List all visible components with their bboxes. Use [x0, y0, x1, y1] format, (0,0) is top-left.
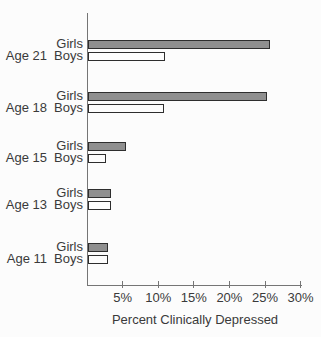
x-tick-label-15: 15% — [176, 290, 212, 305]
group-label-age-21: Age 21 — [6, 50, 47, 62]
bar-girls-age-13 — [88, 189, 111, 198]
group-label-age-18: Age 18 — [6, 102, 47, 114]
group-label-age-13: Age 13 — [6, 199, 47, 211]
x-tick-label-5: 5% — [105, 290, 141, 305]
bar-boys-age-21 — [88, 52, 165, 61]
x-axis-line — [87, 285, 302, 286]
bar-boys-age-18 — [88, 104, 164, 113]
group-label-age-15: Age 15 — [6, 152, 47, 164]
series-label-boys-age-21: Boys — [54, 50, 83, 62]
bar-boys-age-11 — [88, 255, 108, 264]
series-label-boys-age-11: Boys — [54, 253, 83, 265]
x-axis-title: Percent Clinically Depressed — [87, 312, 303, 328]
depression-by-age-bar-chart: GirlsBoysAge 21GirlsBoysAge 18GirlsBoysA… — [0, 0, 321, 337]
group-label-age-11: Age 11 — [7, 253, 47, 265]
x-tick-20 — [229, 281, 230, 288]
series-label-boys-age-18: Boys — [54, 102, 83, 114]
x-tick-15 — [193, 281, 194, 288]
x-tick-label-25: 25% — [247, 290, 283, 305]
x-tick-5 — [122, 281, 123, 288]
x-tick-label-20: 20% — [211, 290, 247, 305]
bar-girls-age-15 — [88, 142, 126, 151]
x-tick-label-30: 30% — [283, 290, 319, 305]
x-tick-label-10: 10% — [140, 290, 176, 305]
x-tick-10 — [158, 281, 159, 288]
bar-girls-age-21 — [88, 40, 270, 49]
x-tick-30 — [300, 281, 301, 288]
series-label-boys-age-15: Boys — [54, 152, 83, 164]
bar-girls-age-11 — [88, 243, 108, 252]
bar-boys-age-15 — [88, 154, 106, 163]
series-label-boys-age-13: Boys — [54, 199, 83, 211]
bar-boys-age-13 — [88, 201, 111, 210]
bar-girls-age-18 — [88, 92, 267, 101]
x-tick-25 — [265, 281, 266, 288]
